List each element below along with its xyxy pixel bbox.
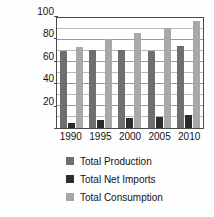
x-tick-label: 2010 [178, 131, 200, 143]
chart-legend: Total ProductionTotal Net ImportsTotal C… [66, 152, 206, 206]
bar-total-production-1990 [60, 51, 67, 128]
legend-item: Total Net Imports [66, 170, 206, 188]
bar-total-consumption-2010 [193, 21, 200, 128]
legend-swatch-icon [66, 175, 74, 183]
legend-swatch-icon [66, 157, 74, 165]
bar-total-net-imports-2005 [156, 117, 163, 128]
y-axis-tick-labels: 20406080100 [22, 17, 54, 129]
bar-total-consumption-2000 [134, 33, 141, 128]
y-tick-label: 80 [28, 29, 54, 39]
bar-total-net-imports-2010 [185, 115, 192, 128]
bar-group [174, 18, 203, 128]
bar-group [145, 18, 174, 128]
bar-total-net-imports-1990 [68, 123, 75, 129]
bar-total-production-2000 [118, 50, 125, 128]
x-tick-label: 1995 [89, 131, 111, 143]
legend-item: Total Consumption [66, 188, 206, 206]
bar-total-net-imports-1995 [97, 120, 104, 128]
x-tick-label: 1990 [60, 131, 82, 143]
bar-total-consumption-2005 [164, 28, 171, 128]
legend-swatch-icon [66, 193, 74, 201]
plot-area [56, 17, 204, 129]
y-tick-label: 20 [28, 97, 54, 107]
legend-label: Total Consumption [80, 192, 163, 203]
x-tick-label: 2005 [148, 131, 170, 143]
bar-total-production-2010 [177, 46, 184, 129]
x-axis-tick-labels: 19901995200020052010 [56, 131, 204, 145]
legend-item: Total Production [66, 152, 206, 170]
legend-label: Total Production [80, 156, 152, 167]
chart-figure: BTUs, quadrillion 20406080100 1990199520… [0, 0, 214, 217]
y-tick-label: 40 [28, 74, 54, 84]
bar-total-consumption-1995 [105, 39, 112, 128]
bar-group [86, 18, 115, 128]
bar-group [115, 18, 144, 128]
bar-total-consumption-1990 [76, 47, 83, 128]
plot-frame [56, 17, 204, 129]
bar-total-production-1995 [89, 50, 96, 128]
bar-group [57, 18, 86, 128]
bar-total-net-imports-2000 [126, 118, 133, 128]
x-tick-label: 2000 [119, 131, 141, 143]
legend-label: Total Net Imports [80, 174, 156, 185]
y-tick-label: 60 [28, 52, 54, 62]
y-tick-label: 100 [28, 7, 54, 17]
bar-total-production-2005 [148, 51, 155, 128]
